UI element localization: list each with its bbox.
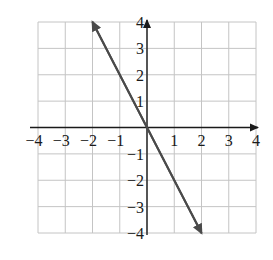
- x-tick-label: 2: [198, 132, 206, 149]
- y-tick-label: −2: [127, 172, 144, 189]
- x-tick-label: −3: [53, 132, 70, 149]
- y-tick-label: 2: [136, 67, 144, 84]
- y-tick-label: −4: [127, 225, 144, 242]
- x-tick-label: −4: [25, 132, 42, 149]
- axes: [30, 20, 258, 235]
- coordinate-plane: −4−3−2−11234−4−3−2−11234: [0, 0, 273, 260]
- x-tick-label: −2: [80, 132, 97, 149]
- x-tick-label: 3: [225, 132, 233, 149]
- y-tick-label: 4: [136, 14, 144, 31]
- y-tick-label: −3: [127, 199, 144, 216]
- x-tick-label: 4: [252, 132, 260, 149]
- y-tick-label: 3: [136, 40, 144, 57]
- x-tick-label: −1: [107, 132, 124, 149]
- x-tick-label: 1: [170, 132, 178, 149]
- y-tick-label: −1: [127, 146, 144, 163]
